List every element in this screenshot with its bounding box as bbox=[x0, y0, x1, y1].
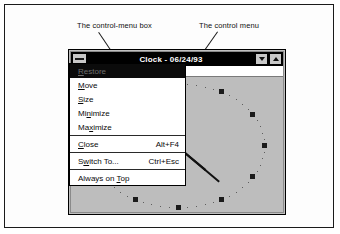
menu-item-minimize[interactable]: Minimize bbox=[70, 106, 185, 120]
menu-item-accelerator: Alt+F4 bbox=[148, 140, 179, 149]
clock-minute-dot bbox=[205, 204, 206, 205]
menu-item-label: Size bbox=[78, 95, 179, 104]
menu-item-restore: Restore bbox=[70, 64, 185, 78]
clock-minute-dot bbox=[196, 206, 197, 207]
menu-separator bbox=[70, 152, 185, 153]
clock-minute-dot bbox=[236, 99, 237, 100]
clock-minute-dot bbox=[120, 192, 121, 193]
clock-minute-dot bbox=[127, 196, 128, 197]
minimize-button[interactable] bbox=[255, 53, 268, 65]
clock-minute-dot bbox=[143, 202, 144, 203]
menu-item-size[interactable]: Size bbox=[70, 92, 185, 106]
clock-minute-dot bbox=[264, 139, 265, 140]
clock-hour-tick bbox=[219, 197, 224, 202]
clock-minute-dot bbox=[248, 109, 249, 110]
clock-minute-dot bbox=[229, 95, 230, 96]
clock-minute-dot bbox=[248, 182, 249, 183]
menu-separator bbox=[70, 135, 185, 136]
menu-item-move[interactable]: Move bbox=[70, 78, 185, 92]
clock-minute-dot bbox=[187, 84, 188, 85]
clock-minute-dot bbox=[205, 87, 206, 88]
menu-item-label: Maximize bbox=[78, 123, 179, 132]
triangle-up-icon bbox=[273, 57, 279, 61]
menu-item-accelerator: Ctrl+Esc bbox=[141, 157, 179, 166]
clock-hour-tick bbox=[250, 174, 255, 179]
clock-hour-tick bbox=[250, 112, 255, 117]
annotation-control-menu-box-label: The control-menu box bbox=[77, 21, 152, 30]
clock-minute-dot bbox=[213, 202, 214, 203]
clock-hour-tick bbox=[133, 197, 138, 202]
menu-separator bbox=[70, 169, 185, 170]
maximize-button[interactable] bbox=[269, 53, 282, 65]
menu-item-label: Move bbox=[78, 81, 179, 90]
clock-minute-dot bbox=[196, 85, 197, 86]
clock-minute-dot bbox=[160, 206, 161, 207]
clock-hour-tick bbox=[262, 143, 267, 148]
control-menu-dropdown[interactable]: RestoreMoveSizeMinimizeMaximizeCloseAlt+… bbox=[69, 63, 186, 186]
menu-item-label: Restore bbox=[78, 67, 179, 76]
annotation-control-menu-label: The control menu bbox=[199, 21, 259, 30]
clock-minute-dot bbox=[114, 187, 115, 188]
clock-minute-dot bbox=[187, 207, 188, 208]
menu-item-label: Minimize bbox=[78, 109, 179, 118]
clock-hour-tick bbox=[219, 89, 224, 94]
clock-hour-tick bbox=[176, 205, 181, 210]
clock-minute-dot bbox=[213, 89, 214, 90]
clock-minute-dot bbox=[257, 171, 258, 172]
clock-minute-dot bbox=[262, 158, 263, 159]
triangle-down-icon bbox=[259, 57, 265, 61]
clock-minute-dot bbox=[260, 126, 261, 127]
clock-minute-dot bbox=[242, 104, 243, 105]
clock-minute-dot bbox=[169, 207, 170, 208]
menu-item-maximize[interactable]: Maximize bbox=[70, 120, 185, 134]
clock-minute-dot bbox=[229, 196, 230, 197]
menu-item-close[interactable]: CloseAlt+F4 bbox=[70, 137, 185, 151]
clock-minute-dot bbox=[257, 120, 258, 121]
menu-item-label: Switch To... bbox=[78, 157, 141, 166]
figure-frame: The control-menu box The control menu Cl… bbox=[4, 4, 334, 228]
control-menu-box-bar bbox=[75, 58, 84, 60]
menu-item-always-on-top[interactable]: Always on Top bbox=[70, 171, 185, 185]
clock-minute-dot bbox=[264, 152, 265, 153]
menu-item-label: Always on Top bbox=[78, 174, 179, 183]
menu-item-switch-to[interactable]: Switch To...Ctrl+Esc bbox=[70, 154, 185, 168]
menu-item-label: Close bbox=[78, 140, 148, 149]
clock-minute-dot bbox=[236, 192, 237, 193]
clock-minute-dot bbox=[242, 187, 243, 188]
clock-minute-dot bbox=[151, 204, 152, 205]
clock-minute-dot bbox=[260, 165, 261, 166]
clock-minute-dot bbox=[262, 133, 263, 134]
